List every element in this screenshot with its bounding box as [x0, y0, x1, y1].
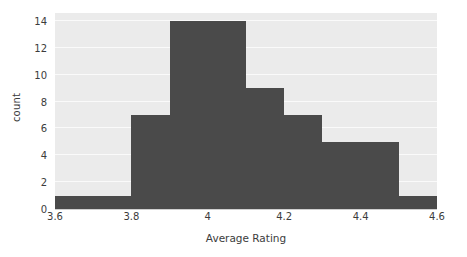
gridline [55, 20, 437, 21]
y-tick-label: 4 [41, 150, 47, 161]
y-tick-label: 12 [34, 42, 47, 53]
histogram-bar [246, 88, 284, 209]
y-tick-label: 14 [34, 16, 47, 27]
y-axis-tick-labels: 02468101214 [0, 0, 54, 257]
y-tick-label: 0 [41, 204, 47, 215]
x-axis-tick-labels: 3.63.844.24.44.6 [55, 211, 437, 227]
histogram-bar [399, 196, 437, 209]
x-tick-label: 4.6 [429, 211, 445, 222]
histogram-bar [55, 196, 93, 209]
plot-area [55, 13, 437, 209]
x-axis-line [55, 209, 437, 210]
histogram-bar [208, 21, 246, 209]
histogram-bar [284, 115, 322, 209]
histogram-figure: count 02468101214 3.63.844.24.44.6 Avera… [0, 0, 467, 257]
histogram-bar [93, 196, 131, 209]
histogram-bar [131, 115, 169, 209]
x-axis-title: Average Rating [55, 232, 437, 244]
histogram-bar [170, 21, 208, 209]
y-tick-label: 10 [34, 69, 47, 80]
gridline [55, 74, 437, 75]
y-tick-label: 2 [41, 177, 47, 188]
x-tick-label: 4 [205, 211, 211, 222]
y-tick-label: 8 [41, 96, 47, 107]
histogram-bar [322, 142, 360, 209]
x-tick-label: 3.8 [123, 211, 139, 222]
histogram-bar [361, 142, 399, 209]
x-tick-label: 4.2 [276, 211, 292, 222]
gridline [55, 47, 437, 48]
x-tick-label: 3.6 [47, 211, 63, 222]
x-tick-label: 4.4 [353, 211, 369, 222]
y-tick-label: 6 [41, 123, 47, 134]
